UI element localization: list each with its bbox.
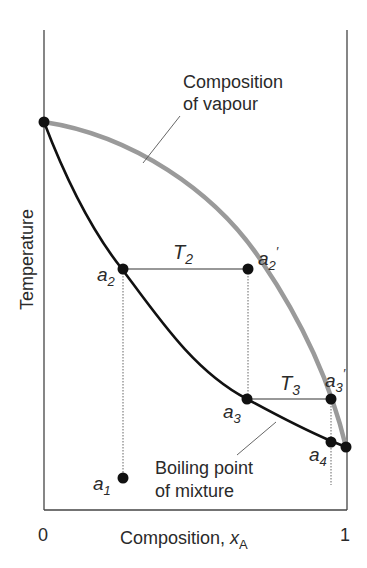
point-a2-prime [243, 264, 254, 275]
boiling-label-leader [237, 422, 276, 455]
label-t3: T3 [280, 372, 300, 398]
boiling-label-line1: Boiling point [155, 458, 253, 478]
point-a1 [118, 473, 129, 484]
label-a2: a2 [97, 264, 116, 289]
vapour-label-line2: of vapour [183, 94, 258, 114]
point-a2 [118, 264, 129, 275]
label-a4: a4 [309, 444, 327, 469]
label-a1: a1 [93, 473, 111, 498]
boiling-point-curve [44, 122, 346, 447]
point-a3-prime [326, 394, 337, 405]
label-a3-prime: a3′ [325, 366, 346, 395]
phase-diagram: Composition of vapour Boiling point of m… [0, 0, 367, 568]
point-pure-a [341, 442, 352, 453]
label-a2-prime: a2′ [258, 244, 279, 273]
label-t2: T2 [173, 241, 193, 267]
point-pure-b [39, 117, 50, 128]
boiling-label-line2: of mixture [155, 481, 234, 501]
point-a4 [326, 437, 337, 448]
point-a3 [242, 394, 253, 405]
y-axis-label: Temperature [17, 209, 37, 310]
x-tick-0: 0 [38, 525, 48, 545]
x-axis-label: Composition, xA [120, 528, 248, 552]
label-a3: a3 [223, 401, 242, 426]
vapour-composition-curve [44, 122, 346, 447]
vapour-label-line1: Composition [183, 72, 283, 92]
x-tick-1: 1 [340, 525, 350, 545]
vapour-label-leader [143, 116, 180, 163]
